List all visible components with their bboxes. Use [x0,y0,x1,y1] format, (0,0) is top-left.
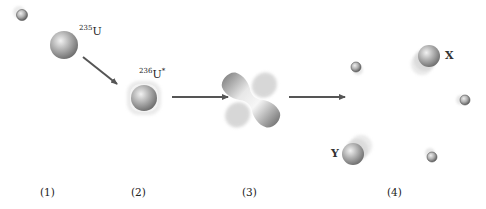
u236-symbol: U [152,68,161,81]
diagram-canvas [0,0,486,209]
fragment-y [342,135,372,165]
fission-diagram: 235U 236U* X Y (1) (2) (3) (4) [0,0,486,209]
stage-label-1: (1) [40,186,55,198]
deformed-nucleus [203,52,298,147]
u236-mass-number: 236 [139,67,152,75]
u235-nucleus [50,31,78,59]
arrow-absorption [83,57,117,84]
stage-label-3: (3) [242,186,257,198]
neutron-product-1 [351,62,363,75]
u236-excited-nucleus [127,81,161,115]
stage-label-2: (2) [131,186,146,198]
fragment-y-label: Y [331,147,339,160]
fragment-x-label: X [445,49,454,62]
u235-symbol: U [92,25,101,38]
stage-label-4: (4) [387,186,402,198]
incoming-neutron [13,6,28,21]
neutron-product-2 [456,95,470,105]
fragment-x [411,45,440,75]
u235-label: 235U [79,24,102,38]
neutron-product-3 [425,148,437,162]
u236-excited-mark: * [162,67,166,75]
u236-label: 236U* [139,67,165,81]
u235-mass-number: 235 [79,24,92,32]
